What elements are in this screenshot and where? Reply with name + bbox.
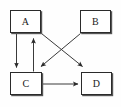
node-a[interactable]: A [10, 10, 41, 33]
node-c-label: C [23, 79, 30, 89]
diagram-canvas: A B C D [0, 0, 121, 107]
node-b[interactable]: B [80, 10, 111, 33]
node-c[interactable]: C [10, 72, 42, 95]
node-a-label: A [22, 17, 29, 27]
node-d[interactable]: D [81, 72, 112, 95]
node-b-label: B [92, 17, 99, 27]
node-d-label: D [93, 79, 100, 89]
